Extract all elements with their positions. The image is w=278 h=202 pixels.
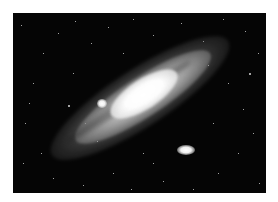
galaxy-image bbox=[13, 13, 266, 193]
upper-left-satellite bbox=[97, 99, 107, 108]
lower-right-satellite bbox=[177, 145, 195, 155]
spiral-galaxy bbox=[13, 13, 266, 193]
